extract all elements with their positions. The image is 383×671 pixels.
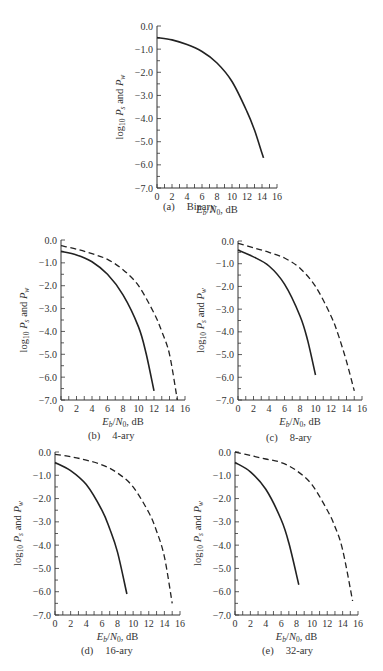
x-tick-label: 10 xyxy=(227,191,237,202)
y-tick-label: 0.0 xyxy=(45,235,58,246)
panel-label: 16-ary xyxy=(105,645,132,656)
x-tick-label: 4 xyxy=(84,618,89,629)
y-tick-label: −4.0 xyxy=(213,540,231,551)
y-tick-label: −4.0 xyxy=(39,326,57,337)
x-tick-label: 8 xyxy=(298,403,303,414)
y-tick-label: −1.0 xyxy=(39,257,57,268)
chart-panel-e: 0.0−1.0−2.0−3.0−4.0−5.0−6.0−7.0024681012… xyxy=(192,447,363,645)
y-axis-title: log10 Ps and Pw xyxy=(192,501,205,566)
y-tick-label: 0.0 xyxy=(141,21,154,32)
panel-letter: (b) xyxy=(88,430,100,441)
x-axis-title: Eb/N0, dB xyxy=(275,631,317,644)
x-tick-label: 6 xyxy=(282,403,287,414)
axes xyxy=(157,26,277,188)
symbol-error-curve xyxy=(238,243,354,391)
x-tick-label: 10 xyxy=(134,403,144,414)
y-tick-label: −7.0 xyxy=(135,183,153,194)
y-axis-title: log10 Ps and Pw xyxy=(12,501,25,566)
y-tick-label: −7.0 xyxy=(39,395,57,406)
x-axis-title: Eb/N0, dB xyxy=(278,416,320,429)
x-tick-label: 6 xyxy=(99,618,104,629)
bit-error-curve xyxy=(157,38,264,158)
x-tick-label: 8 xyxy=(121,403,126,414)
x-tick-label: 12 xyxy=(144,618,154,629)
y-tick-label: −3.0 xyxy=(213,516,231,527)
y-axis-title: log10 Ps and Pw xyxy=(114,75,127,140)
y-tick-label: −7.0 xyxy=(213,610,231,621)
x-tick-label: 16 xyxy=(353,618,363,629)
x-tick-label: 12 xyxy=(242,191,252,202)
y-tick-label: −2.0 xyxy=(33,493,51,504)
x-tick-label: 4 xyxy=(267,403,272,414)
x-tick-label: 4 xyxy=(263,618,268,629)
x-axis-title: Eb/N0, dB xyxy=(96,631,138,644)
chart-panel-b: 0.0−1.0−2.0−3.0−4.0−5.0−6.0−7.0024681012… xyxy=(18,235,190,430)
y-axis-title: log10 Ps and Pw xyxy=(18,288,31,353)
x-tick-label: 2 xyxy=(251,403,256,414)
x-tick-label: 0 xyxy=(233,618,238,629)
y-tick-label: −4.0 xyxy=(33,540,51,551)
x-tick-label: 0 xyxy=(155,191,160,202)
x-tick-label: 2 xyxy=(248,618,253,629)
symbol-error-curve xyxy=(61,246,177,400)
bit-error-curve xyxy=(235,463,299,585)
y-tick-label: −3.0 xyxy=(33,516,51,527)
y-tick-label: −1.0 xyxy=(216,258,234,269)
x-tick-label: 14 xyxy=(257,191,267,202)
x-tick-label: 10 xyxy=(307,618,317,629)
y-tick-label: −6.0 xyxy=(135,159,153,170)
y-tick-label: −5.0 xyxy=(213,563,231,574)
y-tick-label: −3.0 xyxy=(216,304,234,315)
x-tick-label: 2 xyxy=(68,618,73,629)
axes xyxy=(235,452,358,615)
axes xyxy=(238,241,362,400)
panel-letter: (d) xyxy=(81,645,93,656)
panel-caption-c: (c)8-ary xyxy=(266,432,312,443)
x-tick-label: 10 xyxy=(311,403,321,414)
x-tick-label: 8 xyxy=(215,191,220,202)
panel-letter: (a) xyxy=(163,201,175,212)
x-tick-label: 10 xyxy=(128,618,138,629)
x-tick-label: 12 xyxy=(326,403,336,414)
y-tick-label: −3.0 xyxy=(135,90,153,101)
x-tick-label: 14 xyxy=(338,618,348,629)
x-tick-label: 16 xyxy=(175,618,185,629)
x-tick-label: 14 xyxy=(159,618,169,629)
panel-label: 8-ary xyxy=(290,432,312,443)
x-tick-label: 0 xyxy=(59,403,64,414)
axes xyxy=(61,240,185,400)
y-tick-label: −2.0 xyxy=(216,281,234,292)
y-tick-label: −2.0 xyxy=(213,493,231,504)
y-tick-label: −5.0 xyxy=(216,349,234,360)
x-tick-label: 8 xyxy=(294,618,299,629)
chart-panel-c: 0.0−1.0−2.0−3.0−4.0−5.0−6.0−7.0024681012… xyxy=(195,236,367,430)
symbol-error-curve xyxy=(55,454,172,603)
y-tick-label: −1.0 xyxy=(135,44,153,55)
chart-panel-d: 0.0−1.0−2.0−3.0−4.0−5.0−6.0−7.0024681012… xyxy=(12,447,185,645)
y-tick-label: −5.0 xyxy=(135,136,153,147)
bit-error-curve xyxy=(238,250,316,375)
bit-error-curve xyxy=(61,251,154,391)
y-tick-label: 0.0 xyxy=(219,447,232,458)
y-tick-label: −4.0 xyxy=(135,113,153,124)
x-tick-label: 12 xyxy=(322,618,332,629)
y-tick-label: −6.0 xyxy=(33,586,51,597)
panel-caption-a: (a)Binary xyxy=(163,201,215,212)
axes xyxy=(55,452,180,615)
x-tick-label: 16 xyxy=(180,403,190,414)
x-tick-label: 16 xyxy=(357,403,367,414)
x-tick-label: 14 xyxy=(342,403,352,414)
y-tick-label: −5.0 xyxy=(33,563,51,574)
y-tick-label: −1.0 xyxy=(33,470,51,481)
x-tick-label: 8 xyxy=(115,618,120,629)
panel-label: Binary xyxy=(187,201,216,212)
x-tick-label: 16 xyxy=(272,191,282,202)
x-axis-title: Eb/N0, dB xyxy=(101,416,143,429)
panel-caption-e: (e)32-ary xyxy=(262,645,313,656)
y-tick-label: −6.0 xyxy=(213,586,231,597)
chart-panel-a: 0.0−1.0−2.0−3.0−4.0−5.0−6.0−7.0024681012… xyxy=(114,21,282,218)
panel-letter: (e) xyxy=(262,645,274,656)
x-tick-label: 0 xyxy=(53,618,58,629)
y-tick-label: −3.0 xyxy=(39,303,57,314)
bit-error-curve xyxy=(55,463,127,595)
